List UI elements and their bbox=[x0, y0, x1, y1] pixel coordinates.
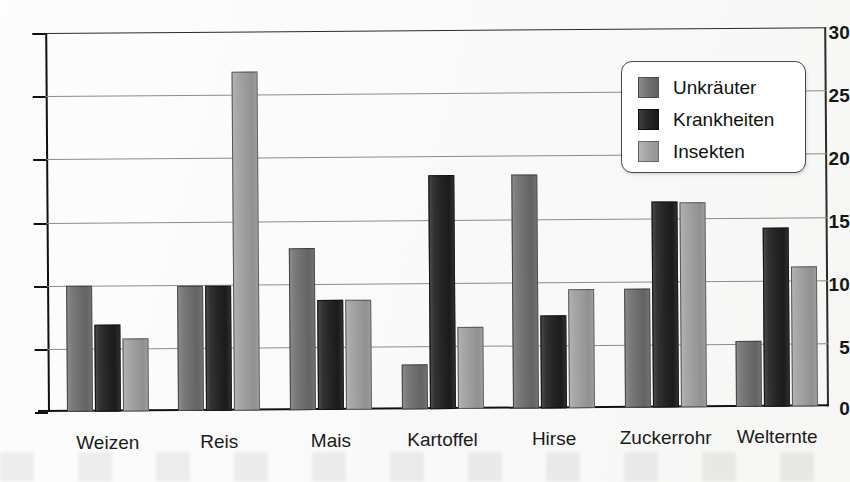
bar bbox=[345, 300, 372, 410]
x-axis-category-label: Welternte bbox=[707, 426, 847, 448]
bar bbox=[401, 364, 427, 410]
legend-item-label: Krankheiten bbox=[673, 109, 774, 131]
bar bbox=[651, 201, 679, 407]
y-axis-tick bbox=[33, 96, 46, 98]
scan-artifact bbox=[0, 452, 850, 482]
legend-swatch-icon bbox=[638, 141, 659, 162]
chart-root: 30 25 20 15 10 5 0 WeizenReisMaisKartoff… bbox=[0, 0, 850, 482]
y-axis-tick bbox=[35, 349, 48, 351]
plot-top-border bbox=[45, 27, 826, 34]
bar bbox=[736, 341, 762, 407]
bar bbox=[679, 203, 706, 408]
bar bbox=[624, 289, 651, 408]
bar bbox=[568, 289, 595, 408]
legend-item-label: Insekten bbox=[673, 141, 745, 163]
y-axis-tick bbox=[32, 33, 45, 35]
bar bbox=[122, 338, 149, 411]
legend-swatch-icon bbox=[638, 77, 659, 98]
y-axis-tick bbox=[33, 159, 46, 161]
bar bbox=[540, 315, 567, 409]
legend-item-label: Unkräuter bbox=[673, 77, 756, 99]
legend-swatch-icon bbox=[638, 109, 659, 130]
y-axis-tick bbox=[34, 223, 47, 225]
y-axis-tick bbox=[35, 412, 48, 414]
bar bbox=[511, 175, 539, 409]
bar bbox=[763, 227, 790, 407]
bar bbox=[317, 300, 344, 410]
bar bbox=[66, 285, 93, 412]
chart-legend: Unkräuter Krankheiten Insekten bbox=[621, 61, 806, 173]
legend-item: Unkräuter bbox=[638, 72, 805, 103]
legend-item: Insekten bbox=[638, 136, 805, 167]
bar bbox=[205, 286, 232, 411]
bar bbox=[428, 175, 456, 409]
bar bbox=[791, 266, 818, 406]
bar bbox=[289, 248, 316, 410]
bar bbox=[457, 327, 484, 409]
bar bbox=[94, 324, 121, 411]
bar bbox=[232, 72, 260, 411]
bar bbox=[177, 286, 204, 411]
legend-item: Krankheiten bbox=[638, 104, 805, 135]
y-axis-tick bbox=[34, 286, 47, 288]
